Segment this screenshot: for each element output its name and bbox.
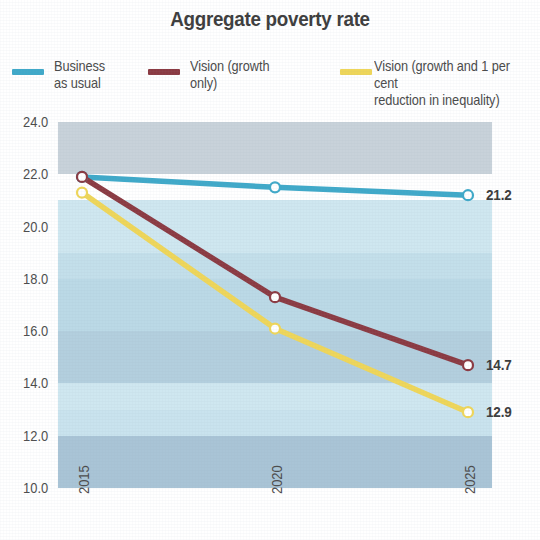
plot-band (58, 148, 492, 174)
plot-band (58, 174, 492, 200)
plot-band (58, 227, 492, 253)
page-title: Aggregate poverty rate (16, 8, 524, 31)
legend-label-vision-growth-only: Vision (growth only) (190, 58, 269, 92)
y-axis-tick-label: 18.0 (23, 270, 48, 287)
plot-band (58, 383, 492, 409)
y-axis-tick-label: 10.0 (23, 479, 48, 496)
plot-band (58, 331, 492, 357)
plot-band (58, 305, 492, 331)
y-axis-tick-label: 16.0 (23, 322, 48, 339)
y-axis-tick-label: 20.0 (23, 218, 48, 235)
plot-band (58, 122, 492, 148)
legend-label-vision-growth-inequality: Vision (growth and 1 per cent reduction … (374, 58, 525, 109)
series-end-label: 14.7 (486, 356, 512, 373)
series-end-label: 12.9 (486, 403, 512, 420)
plot-band (58, 200, 492, 226)
plot-band (58, 410, 492, 436)
series-end-label: 21.2 (486, 186, 512, 203)
plot-band (58, 279, 492, 305)
plot-band (58, 436, 492, 462)
y-axis-labels: 24.022.020.018.016.014.012.010.0 (0, 110, 56, 502)
y-axis-tick-label: 14.0 (23, 374, 48, 391)
chart-page: Aggregate poverty rate Business as usual… (0, 0, 540, 540)
legend-swatch-vision-growth-inequality (340, 69, 372, 75)
plot-band (58, 253, 492, 279)
y-axis-tick-label: 24.0 (23, 113, 48, 130)
plot-background-bands (58, 122, 492, 488)
legend-swatch-business-as-usual (12, 69, 44, 75)
x-axis-labels: 201520202025 (58, 492, 492, 540)
x-axis-tick-label: 2015 (75, 465, 92, 494)
legend-label-business-as-usual: Business as usual (54, 58, 105, 92)
y-axis-tick-label: 22.0 (23, 165, 48, 182)
plot-area (58, 122, 492, 488)
y-axis-tick-label: 12.0 (23, 427, 48, 444)
chart-legend: Business as usual Vision (growth only) V… (6, 58, 540, 108)
plot-band (58, 357, 492, 383)
x-axis-tick-label: 2025 (461, 465, 478, 494)
x-axis-tick-label: 2020 (268, 465, 285, 494)
legend-swatch-vision-growth-only (148, 69, 180, 75)
